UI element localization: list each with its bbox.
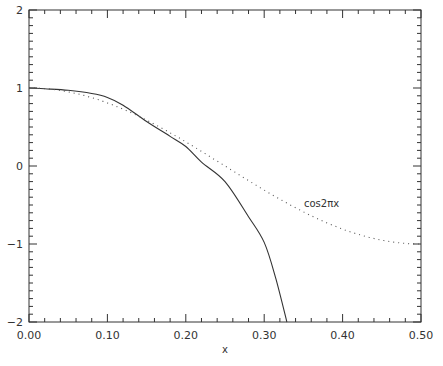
series-layer — [29, 88, 421, 322]
tick-labels: 0.000.100.200.300.400.50−2−1012 — [7, 4, 433, 342]
x-tick-label: 0.50 — [409, 329, 434, 342]
x-tick-label: 0.00 — [17, 329, 42, 342]
y-tick-label: −1 — [7, 238, 23, 251]
y-tick-label: 0 — [16, 160, 23, 173]
axis-ticks — [29, 10, 421, 322]
approximation-curve-solid — [29, 88, 287, 322]
cos-curve-dotted — [29, 88, 421, 244]
x-tick-label: 0.30 — [252, 329, 277, 342]
curve-annotation: cos2πx — [304, 198, 339, 209]
line-chart: 0.000.100.200.300.400.50−2−1012 x cos2πx — [0, 0, 443, 366]
y-tick-label: 1 — [16, 82, 23, 95]
plot-frame — [29, 10, 421, 322]
x-axis-title: x — [222, 344, 228, 355]
x-tick-label: 0.20 — [174, 329, 199, 342]
x-tick-label: 0.40 — [330, 329, 355, 342]
x-tick-label: 0.10 — [95, 329, 120, 342]
y-tick-label: −2 — [7, 316, 23, 329]
y-tick-label: 2 — [16, 4, 23, 17]
